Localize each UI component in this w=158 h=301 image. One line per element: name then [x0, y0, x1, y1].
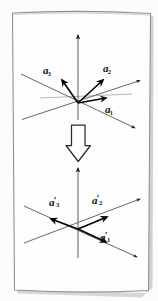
label-a1-subscript: 1: [110, 109, 113, 116]
label-a3-subscript: 3: [48, 70, 51, 77]
vector-label-a1-prime: a′1: [100, 231, 110, 244]
scanned-page-sheet: a1 a2 a3 a′1 a′2 a′3: [0, 0, 158, 301]
vector-label-a2-prime: a′2: [92, 194, 102, 207]
label-a2p-subscript: 2: [99, 199, 102, 206]
label-a2-subscript: 2: [108, 68, 111, 75]
vector-label-a3-prime: a′3: [49, 196, 59, 209]
figure-container: a1 a2 a3 a′1 a′2 a′3: [0, 0, 158, 301]
label-a3p-subscript: 3: [56, 201, 59, 208]
vector-label-a2: a2: [103, 63, 111, 75]
label-a1p-subscript: 1: [107, 236, 110, 243]
figure-drawing: [0, 0, 158, 301]
vector-label-a3: a3: [43, 65, 51, 77]
vector-label-a1: a1: [105, 104, 113, 116]
